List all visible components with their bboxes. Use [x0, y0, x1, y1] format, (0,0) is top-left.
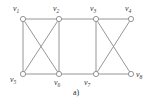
vertex-label-v6: v6: [54, 79, 60, 87]
vertex-label-v2: v2: [53, 5, 59, 13]
vertex-label-v7: v7: [84, 79, 90, 87]
vertex-label-subscript-v1: 1: [17, 8, 20, 14]
edge-layer: [23, 19, 131, 74]
vertex-label-subscript-v4: 4: [129, 8, 132, 14]
graph-vertex-v6: [56, 71, 61, 76]
vertex-label-v3: v3: [90, 5, 96, 13]
vertex-label-subscript-v5: 5: [14, 79, 17, 85]
vertex-label-subscript-v7: 7: [88, 82, 91, 88]
figure-caption: a): [0, 88, 152, 97]
graph-vertex-v2: [56, 16, 61, 21]
graph-vertex-v3: [93, 16, 98, 21]
vertex-label-subscript-v2: 2: [57, 8, 60, 14]
graph-vertex-v5: [20, 71, 25, 76]
vertex-label-subscript-v3: 3: [94, 8, 97, 14]
vertex-layer: [20, 16, 133, 76]
vertex-label-v5: v5: [10, 76, 16, 84]
graph-vertex-v4: [128, 16, 133, 21]
vertex-label-subscript-v8: 8: [140, 74, 143, 80]
vertex-label-subscript-v6: 6: [58, 82, 61, 88]
graph-figure: v1v2v3v4v5v6v7v8 a): [0, 0, 152, 104]
graph-vertex-v1: [20, 16, 25, 21]
graph-vertex-v8: [128, 71, 133, 76]
vertex-label-v1: v1: [13, 5, 19, 13]
vertex-label-v4: v4: [125, 5, 131, 13]
graph-vertex-v7: [93, 71, 98, 76]
vertex-label-v8: v8: [136, 71, 142, 79]
